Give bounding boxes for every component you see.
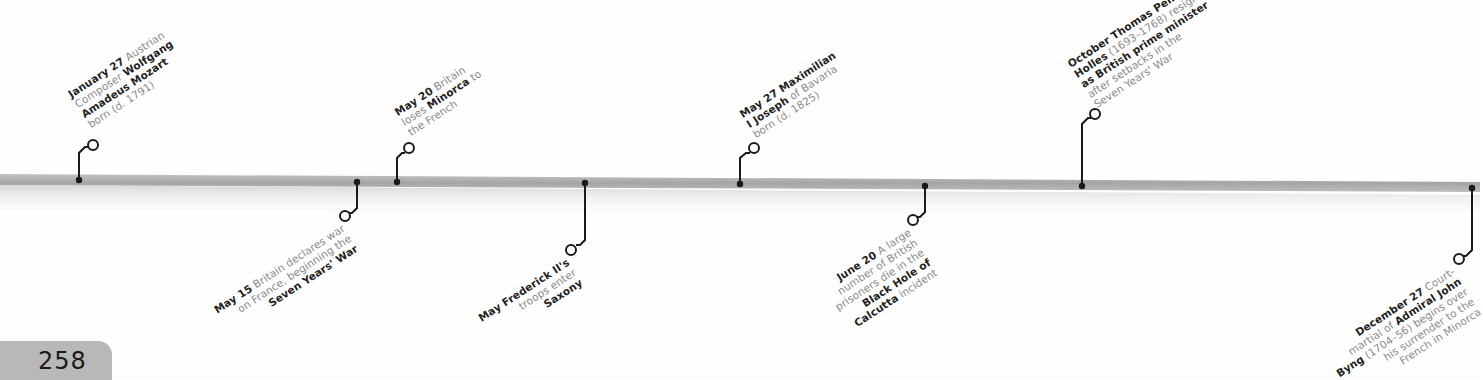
page-number: 258 (38, 347, 87, 375)
marker-circle-may20-icon (404, 143, 414, 153)
marker-circle-may-icon (566, 245, 576, 255)
marker-circle-oct-icon (1090, 109, 1100, 119)
marker-circle-dec27-icon (1454, 254, 1464, 264)
marker-circle-may15-icon (340, 211, 350, 221)
marker-circle-jan27-icon (88, 140, 98, 150)
marker-circle-may27-icon (749, 143, 759, 153)
page-number-tab: 258 (0, 341, 112, 380)
marker-circle-jun20-icon (908, 215, 918, 225)
